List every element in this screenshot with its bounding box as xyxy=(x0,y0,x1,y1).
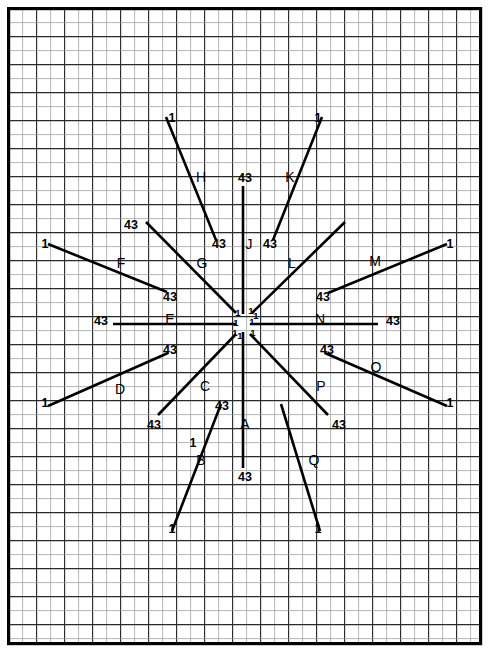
ray-start-value-o: 43 xyxy=(320,343,334,357)
ray-label-p: P xyxy=(316,378,325,394)
ray-label-k: K xyxy=(285,169,295,185)
ray-end-value-k: 43 xyxy=(263,237,277,251)
ray-end-value-o: 1 xyxy=(447,396,454,410)
ray-end-value-h: 43 xyxy=(212,237,226,251)
ray-end-value-f: 43 xyxy=(163,290,177,304)
ray-end-value-m: 43 xyxy=(316,290,330,304)
ray-start-value-e: 43 xyxy=(94,314,108,328)
ray-start-value-n: 43 xyxy=(386,314,400,328)
ray-label-g: G xyxy=(197,255,208,271)
ray-label-b: B xyxy=(196,452,205,468)
ray-end-value-d: 43 xyxy=(163,343,177,357)
ray-end-value-b: 43 xyxy=(215,399,229,413)
ray-label-f: F xyxy=(117,255,126,271)
ray-label-c: C xyxy=(200,378,210,394)
ray-start-value-h: 1 xyxy=(169,111,176,125)
ray-mid-value-b: 1 xyxy=(190,436,197,450)
ray-label-m: M xyxy=(369,253,381,269)
ray-label-l: L xyxy=(288,255,296,271)
ray-label-h: H xyxy=(196,169,206,185)
ray-start-value-b: 1 xyxy=(169,522,176,536)
ray-label-o: O xyxy=(371,359,382,375)
ray-label-d: D xyxy=(115,381,125,397)
ray-start-value-p: 43 xyxy=(332,418,346,432)
ray-start-value-g: 43 xyxy=(124,218,138,232)
center-tick-label: 1 xyxy=(237,330,243,341)
ray-label-n: N xyxy=(315,311,325,327)
ray-label-q: Q xyxy=(309,452,320,468)
figure-root: A43B1431C43D143E43F143G43H143J43K143LM14… xyxy=(0,0,492,657)
center-tick-label: 1 xyxy=(250,327,256,338)
ray-label-j: J xyxy=(246,236,253,252)
ray-start-value-f: 1 xyxy=(42,237,49,251)
ray-start-value-m: 1 xyxy=(447,237,454,251)
ray-label-e: E xyxy=(165,311,174,327)
radial-line-chart: A43B1431C43D143E43F143G43H143J43K143LM14… xyxy=(0,0,492,657)
ray-start-value-c: 43 xyxy=(147,418,161,432)
ray-start-value-j: 43 xyxy=(238,171,252,185)
ray-start-value-a: 43 xyxy=(238,470,252,484)
chart-background xyxy=(0,0,492,657)
ray-start-value-k: 1 xyxy=(315,111,322,125)
ray-start-value-d: 1 xyxy=(42,396,49,410)
ray-label-a: A xyxy=(240,416,250,432)
ray-start-value-q: 1 xyxy=(315,522,322,536)
center-tick-label: 1 xyxy=(249,316,255,327)
